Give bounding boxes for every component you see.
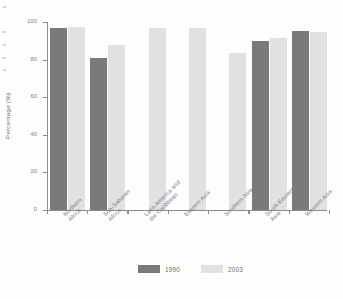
y-axis-line	[47, 22, 48, 210]
y-tick-label: 20	[30, 170, 37, 176]
legend-label: 2003	[228, 266, 243, 273]
y-tick: 80	[43, 60, 47, 61]
y-axis-title: Percentage (%)	[4, 93, 11, 140]
bar-1990-western-asia	[292, 31, 309, 210]
bar-group	[292, 22, 327, 210]
y-tick: 100	[43, 22, 47, 23]
y-tick-label: 0	[34, 207, 37, 213]
bar-2003-latin-america-and-the-caribbean	[149, 28, 166, 210]
y-tick: 20	[43, 172, 47, 173]
bar-1990-south-eastern-asia	[252, 41, 269, 210]
light-gray-swatch	[201, 265, 223, 273]
y-tick-label: 60	[30, 94, 37, 100]
bar-group	[252, 22, 287, 210]
legend-item-2003: 2003	[201, 265, 243, 273]
y-tick-label: 80	[30, 57, 37, 63]
y-tick-label: 100	[27, 19, 37, 25]
bar-group	[211, 22, 246, 210]
bar-2003-sub-saharan-africa	[108, 45, 125, 210]
bar-2003-western-asia	[310, 32, 327, 210]
y-tick-label: 40	[30, 132, 37, 138]
bar-2003-south-eastern-asia	[270, 38, 287, 210]
bar-group	[50, 22, 85, 210]
plot-area: 020406080100 Percentage (%)	[47, 22, 327, 210]
y-tick: 40	[43, 135, 47, 136]
dark-gray-swatch	[138, 265, 160, 273]
bar-1990-sub-saharan-africa	[90, 58, 107, 210]
bar-2003-northern-africa	[68, 27, 85, 210]
bar-2003-southern-asia	[229, 53, 246, 210]
bar-1990-northern-africa	[50, 28, 67, 210]
bar-group	[90, 22, 125, 210]
bar-2003-eastern-asia	[189, 28, 206, 210]
grouped-bar-chart: 020406080100 Percentage (%) NorthernAfri…	[0, 0, 343, 299]
legend-label: 1990	[165, 266, 180, 273]
bar-group	[131, 22, 166, 210]
legend-item-1990: 1990	[138, 265, 180, 273]
y-tick: 60	[43, 97, 47, 98]
chart-legend: 19902003	[138, 265, 243, 273]
